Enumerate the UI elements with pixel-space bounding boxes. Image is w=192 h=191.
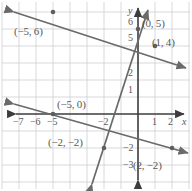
annotation-0-5: (0, 5) xyxy=(142,18,165,29)
y-tick-neg2: −2 xyxy=(123,143,133,153)
annotation-neg2-neg2: (−2, −2) xyxy=(48,137,83,148)
annotation-2-neg2: (2, −2) xyxy=(133,160,162,171)
y-tick-neg3: −3 xyxy=(123,160,133,170)
x-tick-neg5: −5 xyxy=(47,117,57,127)
y-tick-1: 1 xyxy=(128,85,133,95)
annotation-neg5-6: (−5, 6) xyxy=(14,26,43,37)
x-tick-1: 1 xyxy=(152,117,157,127)
y-axis-label: y xyxy=(128,6,132,16)
x-tick-neg2: −2 xyxy=(98,117,108,127)
x-tick-2: 2 xyxy=(168,117,173,127)
x-axis-label: x xyxy=(182,117,186,127)
annotation-1-4: (1, 4) xyxy=(152,37,175,48)
x-tick-neg6: −6 xyxy=(30,117,40,127)
point-marker-neg2-neg2 xyxy=(102,146,107,151)
coordinate-plane-figure: (−5, 6) (0, 5) (1, 4) (−5, 0) (−2, −2) (… xyxy=(0,0,192,191)
series-lower-line xyxy=(14,104,188,153)
x-tick-neg7: −7 xyxy=(13,117,23,127)
point-marker-2-neg2 xyxy=(170,146,175,151)
annotation-neg5-0: (−5, 0) xyxy=(57,99,86,110)
y-tick-6: 6 xyxy=(128,17,133,27)
point-marker-neg5-6 xyxy=(51,10,56,15)
y-tick-5: 5 xyxy=(128,33,133,43)
y-tick-2: 2 xyxy=(128,68,133,78)
point-marker-0-5 xyxy=(136,27,141,32)
